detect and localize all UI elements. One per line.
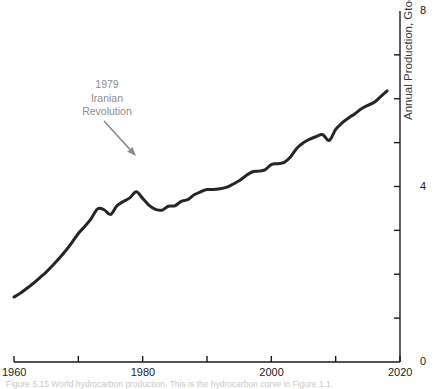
chart-plot <box>0 0 444 389</box>
x-tick-label-2020: 2020 <box>388 366 412 378</box>
figure-caption: Figure 5.15 World hydrocarbon production… <box>6 379 444 389</box>
production-line <box>14 91 387 297</box>
y-axis-ticks <box>394 55 400 318</box>
y-tick-label-8: 8 <box>420 4 426 16</box>
x-axis-ticks <box>14 356 400 362</box>
y-axis-title: Annual Production, Gtoe <box>402 0 414 120</box>
figure-container: 1960198020002020 048 Annual Production, … <box>0 0 444 389</box>
chart-axes <box>14 11 400 362</box>
annotation-line-country: Iranian <box>61 92 153 106</box>
x-tick-label-1980: 1980 <box>131 366 155 378</box>
iranian-revolution-label: 1979 Iranian Revolution <box>61 78 153 119</box>
y-tick-label-4: 4 <box>420 180 426 192</box>
annotation-line-year: 1979 <box>61 78 153 92</box>
annotation-arrow-icon <box>104 121 136 156</box>
x-tick-label-1960: 1960 <box>2 366 26 378</box>
x-tick-label-2000: 2000 <box>259 366 283 378</box>
annotation-line-event: Revolution <box>61 105 153 119</box>
y-tick-label-0: 0 <box>420 355 426 367</box>
